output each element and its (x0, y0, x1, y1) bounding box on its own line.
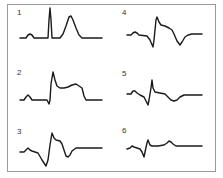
waveform-trace-5 (127, 80, 202, 105)
waveform-traces (0, 0, 223, 178)
waveform-trace-4 (127, 17, 202, 47)
waveform-trace-3 (20, 133, 102, 166)
waveform-trace-1 (20, 8, 102, 38)
waveform-trace-2 (20, 72, 102, 104)
waveform-trace-6 (127, 140, 202, 157)
